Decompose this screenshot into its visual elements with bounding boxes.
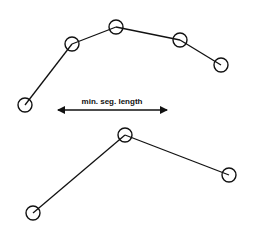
top-chain-segment	[25, 44, 72, 105]
top-chain-segment	[116, 27, 180, 40]
min-segment-length-arrow: min. seg. length	[58, 97, 167, 110]
min-segment-length-label: min. seg. length	[82, 97, 143, 106]
bottom-chain-segment	[33, 135, 125, 213]
polyline-diagram: min. seg. length	[0, 0, 253, 239]
bottom-chain-segment	[125, 135, 229, 175]
bottom-polyline-chain	[26, 128, 236, 220]
